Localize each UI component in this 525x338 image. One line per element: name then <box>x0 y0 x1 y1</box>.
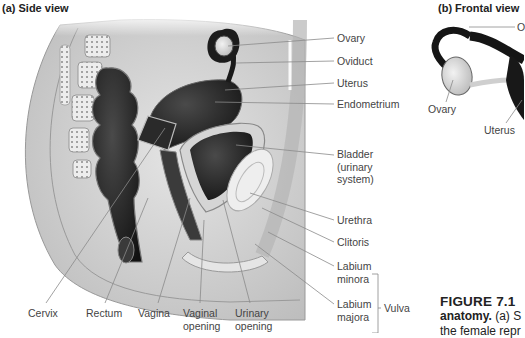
label-vaginal-opening: Vaginal opening <box>183 307 227 332</box>
caption-rest: (a) S <box>495 309 521 323</box>
label-labium-minora: Labium minora <box>337 260 377 285</box>
label-uterus: Uterus <box>337 77 368 90</box>
label-labium-majora: Labium majora <box>337 298 377 323</box>
label-urethra: Urethra <box>337 214 372 227</box>
figure-caption-line2: the female repr <box>440 324 521 338</box>
label-bladder: Bladder (urinary system) <box>337 148 399 186</box>
label-frontal-uterus: Uterus <box>484 124 515 137</box>
label-frontal-oviduct: O <box>517 21 525 34</box>
figure-caption-line1: anatomy. (a) S <box>440 309 521 323</box>
label-endometrium: Endometrium <box>337 98 399 111</box>
label-urinary-opening: Urinary opening <box>235 307 279 332</box>
label-oviduct: Oviduct <box>337 55 373 68</box>
panel-b-title: (b) Frontal view <box>438 2 519 14</box>
label-clitoris: Clitoris <box>337 236 369 249</box>
label-rectum: Rectum <box>86 307 122 320</box>
label-vagina: Vagina <box>138 307 170 320</box>
panel-a-title: (a) Side view <box>2 2 69 14</box>
label-cervix: Cervix <box>28 307 58 320</box>
caption-bold: anatomy. <box>440 309 492 323</box>
label-frontal-ovary: Ovary <box>428 103 456 116</box>
figure-caption-number: FIGURE 7.1 <box>440 294 516 309</box>
label-ovary: Ovary <box>337 32 365 45</box>
label-vulva: Vulva <box>384 302 410 315</box>
figure-number: FIGURE 7.1 <box>440 294 516 309</box>
